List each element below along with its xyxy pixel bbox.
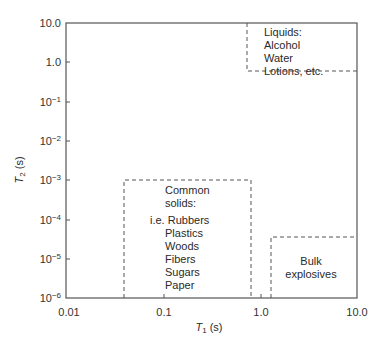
region-label: solids: <box>165 197 196 209</box>
relaxation-time-chart: 10.0 1.0 10−1 10−2 10−3 10−4 10−5 10−6 0… <box>0 0 382 350</box>
y-tick-labels: 10.0 1.0 10−1 10−2 10−3 10−4 10−5 10−6 <box>40 17 62 304</box>
region-bulk-explosives: Bulk explosives <box>271 237 357 298</box>
region-label: Plastics <box>165 227 203 239</box>
region-label: Lotions, etc. <box>264 65 323 77</box>
x-axis-label: T1 (s) <box>195 321 222 335</box>
x-tick-label: 10.0 <box>346 306 367 318</box>
region-label: Fibers <box>165 253 196 265</box>
y-tick-label: 1.0 <box>46 56 61 68</box>
x-tick-label: 0.01 <box>58 306 79 318</box>
region-label: Common <box>165 184 210 196</box>
region-liquids: Liquids: Alcohol Water Lotions, etc. <box>247 23 357 77</box>
region-label: Sugars <box>165 266 200 278</box>
x-tick-labels: 0.01 0.1 1.0 10.0 <box>58 306 367 318</box>
region-label: Water <box>264 52 293 64</box>
y-tick-label: 10−6 <box>40 291 62 304</box>
y-axis-label: T2 (s) <box>13 156 27 183</box>
region-label: explosives <box>285 268 337 280</box>
region-label: Liquids: <box>264 26 302 38</box>
y-tick-label: 10−5 <box>40 252 62 265</box>
region-label: Woods <box>165 240 200 252</box>
region-label: i.e. Rubbers <box>150 214 210 226</box>
y-tick-label: 10−1 <box>40 95 62 108</box>
y-tick-label: 10−4 <box>40 213 62 226</box>
region-label: Alcohol <box>264 39 300 51</box>
x-tick-label: 0.1 <box>156 306 171 318</box>
y-tick-label: 10−3 <box>40 173 62 186</box>
y-tick-label: 10−2 <box>40 134 62 147</box>
region-label: Paper <box>165 279 195 291</box>
region-label: Bulk <box>300 255 322 267</box>
region-common-solids: Common solids: i.e. Rubbers Plastics Woo… <box>124 180 251 298</box>
x-tick-label: 1.0 <box>253 306 268 318</box>
y-tick-label: 10.0 <box>40 17 61 29</box>
